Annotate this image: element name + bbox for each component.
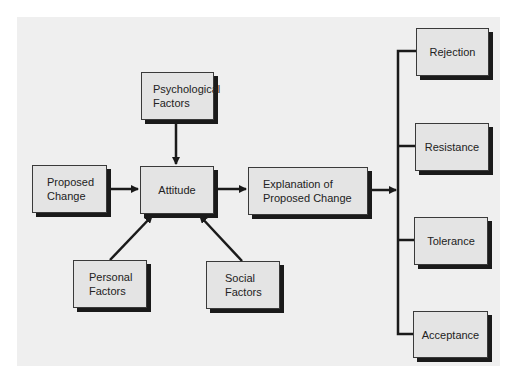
- node-label: Proposed Change: [47, 175, 94, 203]
- node-label: Explanation of Proposed Change: [263, 177, 352, 205]
- node-proposed-change: Proposed Change: [32, 165, 107, 213]
- node-rejection: Rejection: [416, 28, 489, 76]
- node-acceptance: Acceptance: [413, 311, 488, 358]
- node-tolerance: Tolerance: [414, 217, 488, 265]
- node-label: Psychological Factors: [153, 82, 220, 110]
- node-label: Social Factors: [225, 271, 262, 299]
- node-label: Personal Factors: [89, 270, 132, 298]
- node-label: Resistance: [425, 140, 479, 154]
- node-label: Attitude: [158, 183, 195, 197]
- node-explanation: Explanation of Proposed Change: [248, 167, 368, 215]
- outcome-bracket: [398, 51, 416, 334]
- node-social-factors: Social Factors: [206, 261, 280, 309]
- node-label: Tolerance: [427, 234, 475, 248]
- node-label: Rejection: [430, 45, 476, 59]
- arrow-personal-to-attitude: [110, 216, 152, 260]
- node-psychological-factors: Psychological Factors: [141, 72, 214, 120]
- node-attitude: Attitude: [140, 166, 214, 214]
- arrow-social-to-attitude: [200, 216, 242, 261]
- node-personal-factors: Personal Factors: [73, 260, 147, 308]
- node-label: Acceptance: [422, 328, 479, 342]
- node-resistance: Resistance: [415, 123, 489, 171]
